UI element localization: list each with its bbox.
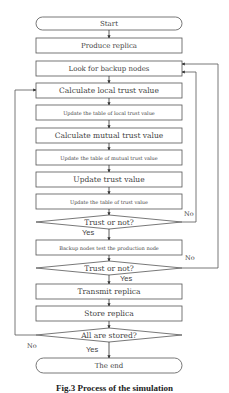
- flow-node-label: The end: [95, 362, 124, 370]
- flow-node-upd-mutual: Update the table of mutual trust value: [36, 150, 182, 165]
- flow-node-upd-local: Update the table of local trust value: [36, 105, 182, 120]
- flow-node-label: Calculate mutual trust value: [55, 131, 163, 140]
- flow-node-store: Store replica: [36, 306, 182, 321]
- flow-node-calc-mutual: Calculate mutual trust value: [36, 128, 182, 143]
- dec1-yes-label: Yes: [82, 229, 94, 237]
- flow-node-label: Start: [100, 20, 118, 28]
- flow-node-label: Update trust value: [73, 175, 144, 184]
- dec2-yes-label: Yes: [120, 275, 132, 283]
- flow-node-backup-test: Backup nodes test the production node: [36, 240, 182, 255]
- flow-node-produce: Produce replica: [36, 38, 182, 53]
- flow-node-label: Trust or not?: [84, 264, 134, 273]
- dec2-no-label: No: [185, 255, 195, 262]
- flow-node-dec1: Trust or not?: [36, 215, 182, 229]
- flow-node-label: Produce replica: [81, 42, 137, 50]
- flow-node-label: All are stored?: [81, 331, 137, 340]
- flow-node-label: Update the table of local trust value: [63, 110, 155, 116]
- flow-node-calc-local: Calculate local trust value: [36, 83, 182, 98]
- flow-node-label: Store replica: [84, 309, 133, 318]
- figure-caption: Fig.3 Process of the simulation: [0, 383, 229, 393]
- flow-node-dec3: All are stored?: [36, 328, 182, 342]
- flow-node-upd-trust: Update trust value: [36, 172, 182, 187]
- flow-node-label: Calculate local trust value: [59, 86, 159, 95]
- flow-node-label: Look for backup nodes: [69, 65, 150, 73]
- flow-node-transmit: Transmit replica: [36, 284, 182, 299]
- dec1-no-label: No: [184, 211, 194, 218]
- flow-node-label: Backup nodes test the production node: [59, 245, 159, 251]
- dec3-no-label: No: [27, 343, 37, 350]
- flow-node-start: Start: [36, 17, 182, 30]
- flow-node-label: Update the table of mutual trust value: [60, 155, 157, 161]
- flow-node-look: Look for backup nodes: [36, 61, 182, 76]
- flow-node-label: Update the table of trust value: [70, 199, 148, 205]
- flow-node-end: The end: [36, 358, 182, 373]
- flow-node-upd-table: Update the table of trust value: [36, 194, 182, 209]
- flow-node-label: Trust or not?: [84, 218, 134, 227]
- dec3-yes-label: Yes: [86, 346, 98, 354]
- flow-node-label: Transmit replica: [78, 287, 141, 296]
- flow-node-dec2: Trust or not?: [36, 261, 182, 275]
